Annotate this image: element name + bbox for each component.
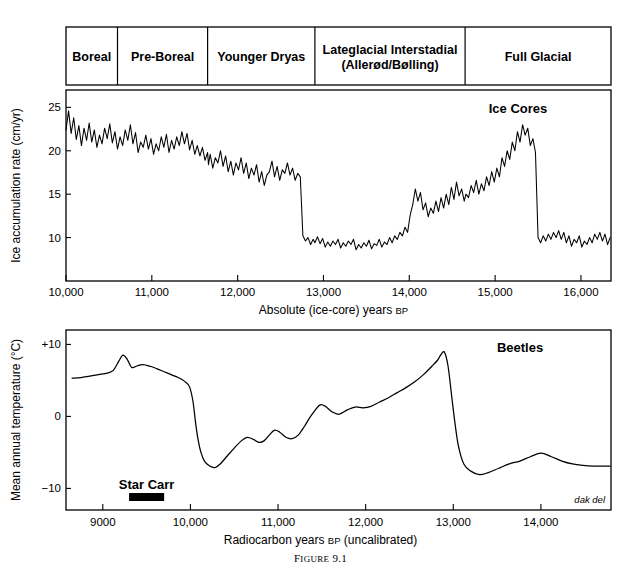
y-axis-title: Mean annual temperature (°C) [9,339,23,501]
artist-credit: dak del [574,494,606,505]
figure-9-1: BorealPre-BorealYounger DryasLateglacial… [0,0,641,580]
ice-cores-panel: 1015202510,00011,00012,00013,00014,00015… [9,90,611,317]
star-carr-annotation: Star Carr [119,477,175,501]
y-tick-label: −10 [41,482,61,494]
x-tick-label: 15,000 [478,286,513,298]
period-cell: Boreal [72,50,111,64]
period-cell: Full Glacial [505,50,572,64]
x-tick-label: 12,000 [220,286,255,298]
period-label: Younger Dryas [217,50,305,64]
y-tick-label: +10 [41,338,61,350]
period-cell: Pre-Boreal [131,50,194,64]
x-tick-label: 9000 [90,516,116,528]
x-tick-label: 11,000 [261,516,295,528]
x-tick-label: 14,000 [523,516,558,528]
panel-title-ice-cores: Ice Cores [489,101,548,116]
y-axis-title: Ice accumulation rate (cm/yr) [9,108,23,263]
figure-caption: FIGURE 9.1 [0,552,641,564]
x-axis-title: Radiocarbon years BP (uncalibrated) [224,533,417,547]
x-tick-label: 16,000 [563,286,598,298]
x-tick-label: 10,000 [173,516,208,528]
y-tick-label: 0 [55,410,61,422]
period-cell: Lateglacial Interstadial(Allerød/Bølling… [323,43,458,72]
x-tick-label: 13,000 [306,286,341,298]
x-tick-label: 13,000 [436,516,471,528]
period-label: Full Glacial [505,50,572,64]
panel-title-beetles: Beetles [497,340,543,355]
x-tick-label: 10,000 [48,286,83,298]
y-tick-label: 20 [48,145,61,157]
x-tick-label: 12,000 [348,516,383,528]
x-tick-label: 14,000 [392,286,427,298]
ice-core-trace [66,111,610,250]
period-label: Pre-Boreal [131,50,194,64]
period-label: Boreal [72,50,111,64]
x-tick-label: 11,000 [135,286,169,298]
x-axis-title: Absolute (ice-core) years BP [259,303,408,317]
period-label: Lateglacial Interstadial [323,43,458,57]
y-tick-label: 15 [48,188,61,200]
period-bar: BorealPre-BorealYounger DryasLateglacial… [66,27,611,85]
caption-number: 9.1 [332,552,347,564]
beetle-trace [72,352,610,475]
star-carr-label: Star Carr [119,477,175,492]
figure-canvas: BorealPre-BorealYounger DryasLateglacial… [0,0,641,580]
y-tick-label: 25 [48,101,61,113]
period-sublabel: (Allerød/Bølling) [341,58,438,72]
caption-word: IGURE [300,554,329,564]
y-tick-label: 10 [48,232,61,244]
star-carr-bar [129,493,164,501]
period-cell: Younger Dryas [217,50,305,64]
beetles-panel: −100+10900010,00011,00012,00013,00014,00… [9,330,611,547]
